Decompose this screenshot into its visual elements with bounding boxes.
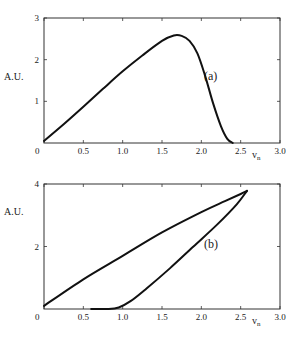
y-tick-label: 2 <box>35 55 40 65</box>
y-tick-label: 2 <box>35 242 40 252</box>
y-ticks-a: 123 <box>35 13 281 106</box>
x-axis-label-a-sub: n <box>257 154 261 162</box>
panel-a: 00.51.01.52.02.53.0 123 A.U. vn (a) <box>4 13 286 162</box>
x-tick-label: 3.0 <box>274 146 286 156</box>
x-tick-label: 0 <box>35 312 40 322</box>
x-tick-label: 0 <box>35 146 40 156</box>
x-tick-label: 0.5 <box>78 146 90 156</box>
panel-b: 00.51.01.52.02.53.0 24 A.U. vn (b) <box>4 179 286 328</box>
x-tick-label: 2.5 <box>235 312 247 322</box>
plot-frame-a <box>44 18 280 143</box>
x-tick-label: 2.5 <box>235 146 247 156</box>
x-axis-label-a: vn <box>252 149 261 162</box>
x-tick-label: 3.0 <box>274 312 286 322</box>
y-axis-label-a: A.U. <box>4 71 23 82</box>
x-axis-label-b-sub: n <box>257 320 261 328</box>
x-ticks-b: 00.51.01.52.02.53.0 <box>35 184 286 322</box>
curves-a <box>44 35 233 143</box>
y-ticks-b: 24 <box>35 179 281 252</box>
x-tick-label: 2.0 <box>196 312 208 322</box>
data-curve-curve-a <box>44 35 233 143</box>
y-tick-label: 1 <box>35 96 40 106</box>
y-tick-label: 3 <box>35 13 40 23</box>
y-axis-label-b: A.U. <box>4 206 23 217</box>
y-tick-label: 4 <box>35 179 40 189</box>
x-ticks-a: 00.51.01.52.02.53.0 <box>35 18 286 156</box>
x-tick-label: 1.0 <box>117 146 129 156</box>
x-tick-label: 1.5 <box>156 146 168 156</box>
panel-label-b: (b) <box>204 237 218 251</box>
x-tick-label: 1.0 <box>117 312 129 322</box>
data-curve-loop-lower-branch <box>91 191 247 309</box>
x-tick-label: 0.5 <box>78 312 90 322</box>
x-axis-label-b: vn <box>252 315 261 328</box>
x-tick-label: 2.0 <box>196 146 208 156</box>
figure: 00.51.01.52.02.53.0 123 A.U. vn (a) 00.5… <box>0 0 300 345</box>
plot-frame-b <box>44 184 280 309</box>
x-tick-label: 1.5 <box>156 312 168 322</box>
